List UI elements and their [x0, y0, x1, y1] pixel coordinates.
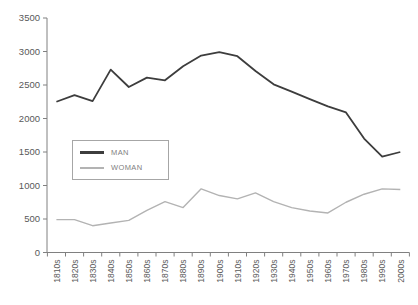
legend-label-man: MAN	[111, 148, 129, 157]
y-axis-tick-label: 2500	[19, 79, 40, 90]
x-axis-tick-label: 1980s	[359, 260, 369, 283]
x-axis-tick-label: 1930s	[269, 260, 279, 283]
x-axis-tick-label: 1940s	[287, 260, 297, 283]
y-axis-tick-label: 1500	[19, 146, 40, 157]
line-chart: 05001000150020002500300035001810s1820s18…	[0, 0, 418, 305]
x-axis-tick-label: 1820s	[70, 260, 80, 283]
y-axis-tick-label: 500	[24, 213, 40, 224]
x-axis-tick-label: 1900s	[215, 260, 225, 283]
x-axis-tick-label: 1990s	[377, 260, 387, 283]
legend-label-woman: WOMAN	[111, 163, 143, 172]
x-axis-tick-label: 1960s	[323, 260, 333, 283]
x-axis-tick-label: 1890s	[196, 260, 206, 283]
y-axis-tick-label: 3000	[19, 46, 40, 57]
y-axis-tick-label: 0	[35, 247, 40, 258]
x-axis-tick-label: 1970s	[341, 260, 351, 283]
legend-item-man: MAN	[80, 146, 168, 158]
x-axis-tick-label: 1850s	[124, 260, 134, 283]
man-line-swatch	[80, 151, 104, 154]
x-axis-tick-label: 1810s	[52, 260, 62, 283]
x-axis-tick-label: 1870s	[160, 260, 170, 283]
x-axis-tick-label: 1880s	[178, 260, 188, 283]
chart-canvas: 05001000150020002500300035001810s1820s18…	[0, 0, 418, 305]
woman-line-swatch	[80, 167, 104, 169]
y-axis-tick-label: 3500	[19, 12, 40, 23]
x-axis-tick-label: 1830s	[88, 260, 98, 283]
x-axis-tick-label: 1910s	[233, 260, 243, 283]
y-axis-tick-label: 1000	[19, 180, 40, 191]
woman-series-line	[56, 189, 400, 226]
x-axis-tick-label: 1860s	[142, 260, 152, 283]
x-axis-tick-label: 2000s	[396, 260, 406, 283]
x-axis-tick-label: 1840s	[106, 260, 116, 283]
x-axis-tick-label: 1920s	[251, 260, 261, 283]
y-axis-tick-label: 2000	[19, 113, 40, 124]
legend-item-woman: WOMAN	[80, 162, 168, 174]
x-axis-tick-label: 1950s	[305, 260, 315, 283]
axis-lines	[47, 18, 409, 253]
legend: MAN WOMAN	[72, 140, 169, 180]
